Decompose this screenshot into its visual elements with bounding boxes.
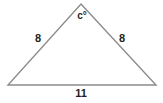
left-side-length-label: 8	[35, 33, 41, 44]
base-length-label: 11	[75, 88, 87, 99]
apex-angle-label: c°	[77, 11, 87, 21]
triangle-figure: 8 8 11 c°	[0, 0, 163, 103]
right-side-length-label: 8	[119, 33, 125, 44]
